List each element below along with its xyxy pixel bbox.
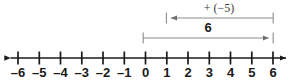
tick-label-4: 4 — [227, 65, 235, 80]
second-jump-label: + (−5) — [204, 1, 235, 15]
number-line-axis: –6 –5 –4 –3 –2 –1 0 1 2 3 4 5 6 — [11, 52, 287, 81]
tick-label--2: –2 — [96, 65, 110, 80]
tick-label-0: 0 — [142, 65, 149, 80]
first-jump-label: 6 — [204, 20, 211, 35]
tick-label-1: 1 — [163, 65, 170, 80]
tick-label--5: –5 — [32, 65, 46, 80]
number-line-figure: + (−5) 6 — [0, 0, 294, 83]
tick-label-3: 3 — [206, 65, 213, 80]
first-jump-annotation: 6 — [143, 20, 273, 43]
tick-label-2: 2 — [184, 65, 191, 80]
tick-label-6: 6 — [269, 65, 276, 80]
tick-label-5: 5 — [248, 65, 255, 80]
tick-label--1: –1 — [117, 65, 131, 80]
tick-label--6: –6 — [11, 65, 25, 80]
tick-label--3: –3 — [75, 65, 89, 80]
number-line-svg: + (−5) 6 — [0, 0, 294, 83]
tick-label--4: –4 — [53, 65, 68, 80]
axis-tick-labels: –6 –5 –4 –3 –2 –1 0 1 2 3 4 5 6 — [11, 65, 277, 80]
second-jump-annotation: + (−5) — [166, 1, 273, 24]
